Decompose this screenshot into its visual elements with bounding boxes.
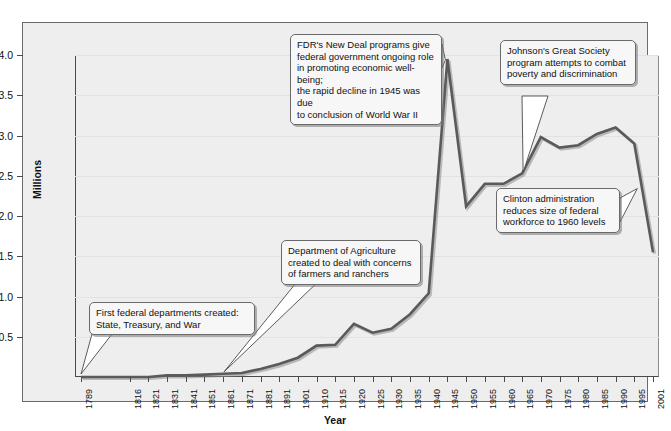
x-axis-tick-label: 1881 <box>265 389 274 409</box>
x-axis-tick-label: 1851 <box>208 389 217 409</box>
annotation-line: Clinton administration <box>503 193 613 205</box>
annotation-line: Johnson's Great Society <box>507 45 629 57</box>
x-axis-tick-label: 1935 <box>414 389 423 409</box>
x-axis-tick-label: 1925 <box>377 389 386 409</box>
x-axis-tick <box>653 377 654 382</box>
x-axis-tick-label: 1975 <box>564 389 573 409</box>
annotation-new-deal: FDR's New Deal programs givefederal gove… <box>290 34 442 125</box>
x-axis-tick-label: 1816 <box>134 389 143 409</box>
x-axis-tick <box>317 377 318 382</box>
y-axis-tick-label: 3.0 <box>0 130 13 142</box>
x-axis-tick-label: 1960 <box>508 389 517 409</box>
y-axis-tick-label: 3.5 <box>0 89 13 101</box>
x-axis-tick-label: 1915 <box>339 389 348 409</box>
x-axis-tick-label: 1930 <box>395 389 404 409</box>
x-axis-tick <box>373 377 374 382</box>
x-axis-tick-label: 1970 <box>545 389 554 409</box>
annotation-line: reduces size of federal <box>503 205 613 217</box>
x-axis-tick-label: 1861 <box>227 389 236 409</box>
x-axis-tick <box>447 377 448 382</box>
y-axis-tick <box>17 136 23 137</box>
x-axis-tick-label: 1841 <box>190 389 199 409</box>
x-axis-tick <box>130 377 131 382</box>
annotation-line: Department of Agriculture <box>288 245 414 257</box>
x-axis-tick <box>298 377 299 382</box>
x-axis-tick-label: 1945 <box>451 389 460 409</box>
x-axis-tick <box>522 377 523 382</box>
x-axis-tick <box>81 377 82 382</box>
annotation-line: program attempts to combat <box>507 57 629 69</box>
x-axis-tick <box>223 377 224 382</box>
annotation-line: poverty and discrimination <box>507 68 629 80</box>
x-axis-tick-label: 1940 <box>433 389 442 409</box>
y-axis-tick <box>17 337 23 338</box>
x-axis-tick <box>597 377 598 382</box>
x-axis-title: Year <box>23 414 647 426</box>
annotation-line: the rapid decline in 1945 was due <box>297 85 435 108</box>
x-axis-tick <box>429 377 430 382</box>
x-axis-tick-label: 1831 <box>171 389 180 409</box>
y-axis-tick <box>17 176 23 177</box>
x-axis-tick-label: 1990 <box>620 389 629 409</box>
x-axis-tick <box>242 377 243 382</box>
x-axis-tick-label: 1871 <box>246 389 255 409</box>
annotation-line: to conclusion of World War II <box>297 109 435 121</box>
y-axis-tick-label: 1.5 <box>0 250 13 262</box>
y-axis-tick-label: 2.5 <box>0 170 13 182</box>
annotation-line: FDR's New Deal programs give <box>297 39 435 51</box>
annotation-great-society: Johnson's Great Societyprogram attempts … <box>500 40 636 85</box>
y-axis-tick-label: 1.0 <box>0 291 13 303</box>
x-axis-tick <box>560 377 561 382</box>
x-axis-tick-label: 2001 <box>657 389 666 409</box>
y-axis-tick <box>17 216 23 217</box>
x-axis-tick-label: 1995 <box>638 389 647 409</box>
annotation-line: in promoting economic well-being; <box>297 62 435 85</box>
y-axis-tick-label: 0.5 <box>0 331 13 343</box>
x-axis-tick-label: 1985 <box>601 389 610 409</box>
x-axis-tick <box>410 377 411 382</box>
x-axis-tick <box>204 377 205 382</box>
y-axis-tick-label: 2.0 <box>0 210 13 222</box>
chart-page: Millions 0.51.01.52.02.53.03.54.0 178918… <box>0 0 671 431</box>
x-axis-tick-label: 1955 <box>489 389 498 409</box>
annotation-line: created to deal with concerns <box>288 257 414 269</box>
x-axis-tick <box>578 377 579 382</box>
x-axis-tick-label: 1901 <box>302 389 311 409</box>
x-axis-tick <box>354 377 355 382</box>
x-axis-tick-label: 1980 <box>582 389 591 409</box>
x-axis-tick-label: 1950 <box>470 389 479 409</box>
x-axis-tick <box>279 377 280 382</box>
x-axis-tick <box>634 377 635 382</box>
annotation-line: of farmers and ranchers <box>288 268 414 280</box>
y-axis-tick <box>17 95 23 96</box>
x-axis-tick <box>485 377 486 382</box>
y-axis-tick <box>17 256 23 257</box>
annotation-line: First federal departments created: <box>96 307 248 319</box>
annotation-first-departments: First federal departments created:State,… <box>89 302 255 335</box>
y-axis-tick <box>17 297 23 298</box>
y-axis-tick-label: 4.0 <box>0 49 13 61</box>
annotation-agriculture: Department of Agriculturecreated to deal… <box>281 240 421 285</box>
x-axis-tick <box>616 377 617 382</box>
x-axis-tick <box>148 377 149 382</box>
x-axis-tick <box>167 377 168 382</box>
x-axis-tick <box>261 377 262 382</box>
x-axis-tick <box>541 377 542 382</box>
x-axis-tick <box>335 377 336 382</box>
x-axis-tick-label: 1891 <box>283 389 292 409</box>
y-axis-tick <box>17 55 23 56</box>
annotation-line: State, Treasury, and War <box>96 319 248 331</box>
x-axis-tick-label: 1821 <box>152 389 161 409</box>
x-axis-tick-label: 1910 <box>321 389 330 409</box>
annotation-line: workforce to 1960 levels <box>503 216 613 228</box>
x-axis-tick-label: 1789 <box>85 389 94 409</box>
annotation-line: federal government ongoing role <box>297 51 435 63</box>
x-axis-tick-label: 1920 <box>358 389 367 409</box>
x-axis-tick <box>466 377 467 382</box>
annotation-clinton: Clinton administrationreduces size of fe… <box>496 188 620 233</box>
x-axis-tick <box>391 377 392 382</box>
x-axis-tick <box>504 377 505 382</box>
x-axis-tick <box>186 377 187 382</box>
x-axis-tick-label: 1965 <box>526 389 535 409</box>
